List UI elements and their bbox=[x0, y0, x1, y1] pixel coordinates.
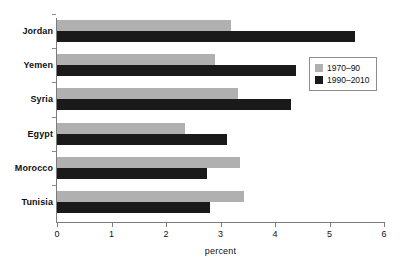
bar-yemen-series-1 bbox=[57, 65, 296, 76]
bar-tunisia-series-0 bbox=[57, 191, 244, 202]
bar-syria-series-1 bbox=[57, 99, 291, 110]
x-axis-tick-5 bbox=[330, 223, 331, 227]
bar-jordan-series-1 bbox=[57, 31, 355, 42]
category-label-yemen: Yemen bbox=[1, 60, 53, 70]
x-axis-tick-0 bbox=[57, 223, 58, 227]
category-label-tunisia: Tunisia bbox=[1, 197, 53, 207]
category-label-egypt: Egypt bbox=[1, 129, 53, 139]
y-axis-tick bbox=[52, 82, 56, 83]
x-axis-tick-3 bbox=[221, 223, 222, 227]
bar-syria-series-0 bbox=[57, 88, 238, 99]
x-axis-tick-4 bbox=[275, 223, 276, 227]
x-axis-tick-2 bbox=[166, 223, 167, 227]
x-axis-tick-6 bbox=[384, 223, 385, 227]
category-label-layer: JordanYemenSyriaEgyptMoroccoTunisia bbox=[0, 18, 53, 223]
y-axis-tick bbox=[52, 185, 56, 186]
x-axis-title: percent bbox=[57, 246, 384, 256]
y-axis-tick bbox=[52, 117, 56, 118]
bar-morocco-series-1 bbox=[57, 168, 207, 179]
x-axis-tick-label-6: 6 bbox=[372, 229, 396, 239]
bar-group bbox=[57, 191, 384, 215]
y-axis-tick bbox=[52, 151, 56, 152]
bar-chart: JordanYemenSyriaEgyptMoroccoTunisia 0123… bbox=[0, 0, 405, 270]
bar-egypt-series-1 bbox=[57, 134, 227, 145]
legend-swatch-icon-series-0 bbox=[315, 64, 323, 72]
legend-label-series-1: 1990–2010 bbox=[327, 75, 370, 85]
bar-morocco-series-0 bbox=[57, 157, 240, 168]
bar-tunisia-series-1 bbox=[57, 202, 210, 213]
bar-group bbox=[57, 123, 384, 147]
x-axis-tick-label-2: 2 bbox=[154, 229, 178, 239]
x-axis-tick-label-1: 1 bbox=[100, 229, 124, 239]
category-label-morocco: Morocco bbox=[1, 163, 53, 173]
plot-area bbox=[57, 18, 384, 223]
legend-item-series-0: 1970–90 bbox=[315, 62, 370, 74]
x-axis-tick-label-5: 5 bbox=[318, 229, 342, 239]
bar-group bbox=[57, 157, 384, 181]
x-axis-tick-label-0: 0 bbox=[45, 229, 69, 239]
bar-group bbox=[57, 20, 384, 44]
x-axis-tick-label-3: 3 bbox=[209, 229, 233, 239]
bar-jordan-series-0 bbox=[57, 20, 231, 31]
legend-item-series-1: 1990–2010 bbox=[315, 74, 370, 86]
category-label-jordan: Jordan bbox=[1, 26, 53, 36]
y-axis-tick bbox=[52, 48, 56, 49]
bar-yemen-series-0 bbox=[57, 54, 215, 65]
bar-group bbox=[57, 88, 384, 112]
category-label-syria: Syria bbox=[1, 94, 53, 104]
legend-swatch-icon-series-1 bbox=[315, 76, 323, 84]
y-axis-tick bbox=[52, 14, 56, 15]
bar-egypt-series-0 bbox=[57, 123, 185, 134]
legend-label-series-0: 1970–90 bbox=[327, 63, 360, 73]
x-axis-tick-label-4: 4 bbox=[263, 229, 287, 239]
x-axis-tick-1 bbox=[112, 223, 113, 227]
chart-legend: 1970–90 1990–2010 bbox=[309, 57, 377, 91]
